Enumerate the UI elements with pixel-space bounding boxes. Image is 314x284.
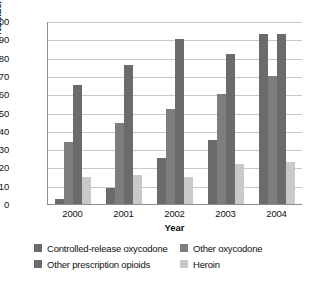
bar-group: [200, 22, 251, 204]
legend-label: Other oxycodone: [193, 243, 262, 254]
y-axis-tick: 80: [0, 54, 9, 64]
bar-groups: [48, 22, 302, 204]
bar: [268, 76, 277, 204]
bar: [259, 34, 268, 204]
chart-legend: Controlled-release oxycodoneOther oxycod…: [34, 240, 310, 272]
y-axis-tick: 10: [0, 182, 9, 192]
legend-swatch: [34, 244, 42, 252]
legend-swatch: [34, 260, 42, 268]
x-axis-tick: 2004: [251, 208, 302, 219]
bar: [226, 54, 235, 204]
y-axis-tick: 20: [0, 163, 9, 173]
y-axis-tick: 30: [0, 145, 9, 155]
bar: [73, 85, 82, 204]
bar-group: [150, 22, 201, 204]
bar-group: [251, 22, 302, 204]
y-axis-tick: 90: [0, 35, 9, 45]
bar: [166, 109, 175, 204]
bar-group: [99, 22, 150, 204]
legend-item: Other oxycodone: [180, 243, 310, 254]
bar: [235, 164, 244, 204]
bar: [217, 94, 226, 204]
bar: [124, 65, 133, 204]
bar-group: [48, 22, 99, 204]
bar: [175, 39, 184, 204]
bar: [286, 162, 295, 204]
y-axis-tick: 50: [0, 109, 9, 119]
bar: [82, 177, 91, 204]
bar: [106, 188, 115, 204]
bar: [115, 123, 124, 204]
legend-swatch: [180, 244, 188, 252]
bar: [277, 34, 286, 204]
bar: [64, 142, 73, 204]
y-axis-tick: 60: [0, 90, 9, 100]
y-axis-tick: 70: [0, 72, 9, 82]
bar: [157, 158, 166, 204]
bar: [184, 177, 193, 204]
legend-item: Other prescription opioids: [34, 259, 180, 270]
x-axis-tick-labels: 20002001200220032004: [47, 208, 302, 219]
bar: [208, 140, 217, 204]
y-axis-tick: 40: [0, 127, 9, 137]
y-axis-tick: 100: [0, 17, 9, 27]
x-axis-label: Year: [47, 222, 302, 233]
legend-label: Other prescription opioids: [47, 259, 150, 270]
legend-label: Heroin: [193, 259, 220, 270]
x-axis-tick: 2000: [47, 208, 98, 219]
bar: [55, 199, 64, 204]
legend-swatch: [180, 260, 188, 268]
x-axis-tick: 2001: [98, 208, 149, 219]
plot-area: [47, 22, 302, 205]
legend-item: Heroin: [180, 259, 310, 270]
legend-label: Controlled-release oxycodone: [47, 243, 168, 254]
x-axis-tick: 2003: [200, 208, 251, 219]
bar: [133, 175, 142, 204]
x-axis-tick: 2002: [149, 208, 200, 219]
legend-item: Controlled-release oxycodone: [34, 243, 180, 254]
bar-chart: Number of Admissions 1009080706050403020…: [0, 0, 314, 284]
y-axis-tick: 0: [0, 200, 9, 210]
